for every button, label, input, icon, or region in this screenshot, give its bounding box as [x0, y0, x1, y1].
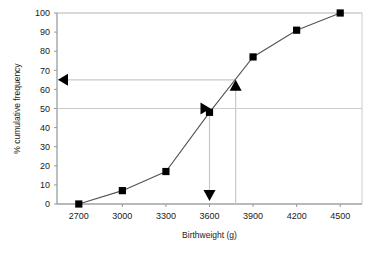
y-tick-label-30: 30	[40, 142, 50, 152]
data-point-3900	[249, 53, 256, 60]
x-tick-label-4500: 4500	[330, 211, 350, 221]
x-axis-title: Birthweight (g)	[182, 230, 237, 240]
y-tick-label-80: 80	[40, 46, 50, 56]
x-tick-label-4200: 4200	[287, 211, 307, 221]
left-arrow-icon	[58, 74, 68, 86]
x-tick-label-2700: 2700	[69, 211, 89, 221]
y-tick-label-20: 20	[40, 161, 50, 171]
data-point-3600	[206, 109, 213, 116]
data-point-3300	[162, 168, 169, 175]
y-tick-label-90: 90	[40, 27, 50, 37]
cumulative-frequency-chart: 0102030405060708090100270030003300360039…	[0, 0, 386, 255]
y-axis-title: % cumulative frequency	[12, 63, 22, 154]
y-tick-label-10: 10	[40, 180, 50, 190]
y-tick-label-60: 60	[40, 85, 50, 95]
x-tick-label-3600: 3600	[199, 211, 219, 221]
down-arrow-icon	[204, 190, 216, 201]
x-tick-label-3900: 3900	[243, 211, 263, 221]
data-point-3000	[119, 187, 126, 194]
y-tick-label-50: 50	[40, 104, 50, 114]
up-arrow-icon	[230, 80, 242, 91]
y-tick-label-100: 100	[35, 8, 50, 18]
data-point-2700	[75, 200, 82, 207]
data-point-4500	[337, 9, 344, 16]
x-tick-label-3300: 3300	[156, 211, 176, 221]
data-point-4200	[293, 27, 300, 34]
y-tick-label-0: 0	[45, 199, 50, 209]
y-tick-label-40: 40	[40, 123, 50, 133]
x-tick-label-3000: 3000	[112, 211, 132, 221]
chart-canvas: 0102030405060708090100270030003300360039…	[0, 0, 386, 255]
y-tick-label-70: 70	[40, 66, 50, 76]
